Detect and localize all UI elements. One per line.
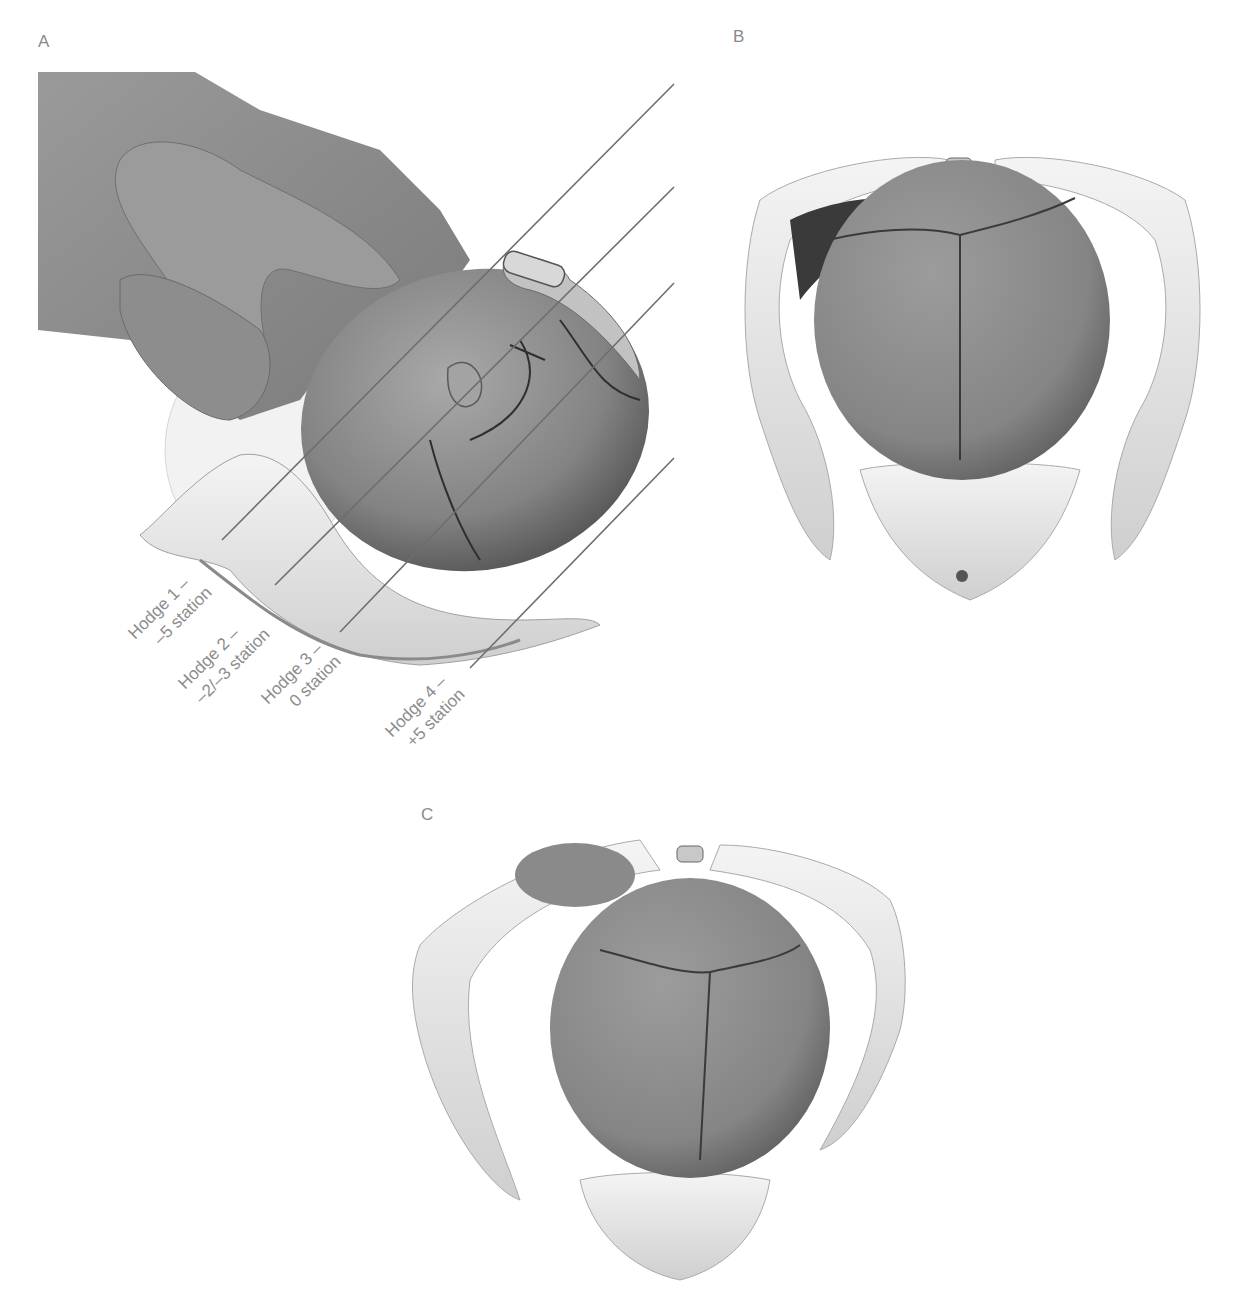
fetal-head-c bbox=[550, 878, 830, 1178]
fetal-shoulder-c bbox=[515, 843, 635, 907]
sacrum-b bbox=[860, 463, 1080, 601]
sacrum-c bbox=[580, 1173, 770, 1281]
fetal-head-b bbox=[814, 160, 1110, 480]
hodge-1-label: Hodge 1 – –5 station bbox=[124, 567, 215, 658]
panel-a-figure: Hodge 1 – –5 station Hodge 2 – –2/–3 sta… bbox=[38, 72, 677, 756]
hodge-4-label: Hodge 4 – +5 station bbox=[381, 669, 468, 756]
coccyx-tip-b bbox=[956, 570, 968, 582]
panel-c-figure bbox=[413, 840, 906, 1280]
hodge-3-label: Hodge 3 – 0 station bbox=[257, 636, 344, 723]
symphysis-c bbox=[677, 846, 703, 862]
panel-b-figure bbox=[745, 157, 1200, 600]
